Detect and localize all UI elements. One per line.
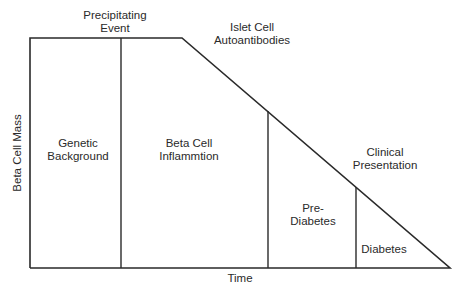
stage-line: Diabetes (290, 215, 335, 228)
stage-line: Diabetes (361, 243, 406, 256)
event-line: Presentation (353, 159, 418, 172)
x-axis-label: Time (227, 272, 252, 285)
event-line: Autoantibodies (214, 34, 290, 47)
event-line: Clinical (353, 146, 418, 159)
y-axis-label: Beta Cell Mass (11, 114, 23, 191)
event-islet: Islet Cell Autoantibodies (214, 21, 290, 47)
stage-line: Pre- (290, 202, 335, 215)
stage-diabetes: Diabetes (361, 243, 406, 256)
stage-beta-cell-inflammation: Beta Cell Inflammtion (159, 137, 218, 163)
event-line: Islet Cell (214, 21, 290, 34)
stage-line: Beta Cell (159, 137, 218, 150)
stage-line: Background (47, 150, 108, 163)
stage-line: Inflammtion (159, 150, 218, 163)
stage-genetic-background: Genetic Background (47, 137, 108, 163)
event-line: Precipitating (83, 9, 146, 22)
stage-pre-diabetes: Pre- Diabetes (290, 202, 335, 228)
stage-line: Genetic (47, 137, 108, 150)
event-clinical: Clinical Presentation (353, 146, 418, 172)
event-line: Event (83, 22, 146, 35)
event-precipitating: Precipitating Event (83, 9, 146, 35)
